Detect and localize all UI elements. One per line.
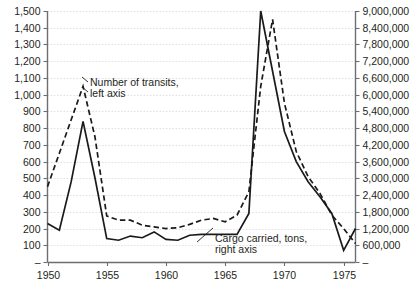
transits-annotation-line2: left axis <box>90 87 126 99</box>
tick-label-right: 4,200,000 <box>363 139 410 151</box>
tick-label-left: 800 <box>23 122 41 134</box>
tick-label-right: 6,000,000 <box>363 89 410 101</box>
tick-label-right: 9,000,000 <box>363 5 410 17</box>
tick-label-left: 500 <box>23 172 41 184</box>
tick-label-right: – <box>363 256 369 268</box>
tick-label-right: 6,600,000 <box>363 72 410 84</box>
tick-label-right: 8,400,000 <box>363 22 410 34</box>
tick-label-right: 4,800,000 <box>363 122 410 134</box>
tick-label-left: 1,400 <box>14 22 40 34</box>
tick-label-x: 1950 <box>37 269 61 281</box>
tick-label-x: 1975 <box>333 269 357 281</box>
tick-label-left: 1,200 <box>14 55 40 67</box>
tick-label-left: – <box>35 256 41 268</box>
tick-label-left: 600 <box>23 156 41 168</box>
tick-label-right: 1,200,000 <box>363 223 410 235</box>
tick-label-right: 3,600,000 <box>363 156 410 168</box>
tick-label-left: 100 <box>23 239 41 251</box>
tick-label-x: 1955 <box>96 269 120 281</box>
tick-label-x: 1960 <box>155 269 179 281</box>
tick-label-x: 1965 <box>214 269 238 281</box>
tick-label-x: 1970 <box>273 269 297 281</box>
tick-label-right: 1,800,000 <box>363 206 410 218</box>
tick-label-left: 1,000 <box>14 89 40 101</box>
tick-label-left: 900 <box>23 105 41 117</box>
tick-label-right: 5,400,000 <box>363 105 410 117</box>
chart-container: –1002003004005006007008009001,0001,1001,… <box>0 0 420 297</box>
tick-label-left: 400 <box>23 189 41 201</box>
tick-label-right: 7,200,000 <box>363 55 410 67</box>
tick-label-left: 200 <box>23 223 41 235</box>
tick-label-left: 1,500 <box>14 5 40 17</box>
tick-label-left: 700 <box>23 139 41 151</box>
tick-label-left: 1,100 <box>14 72 40 84</box>
tick-label-right: 600,000 <box>363 239 401 251</box>
tick-label-left: 300 <box>23 206 41 218</box>
tick-label-right: 3,000,000 <box>363 172 410 184</box>
tick-label-right: 2,400,000 <box>363 189 410 201</box>
line-chart: –1002003004005006007008009001,0001,1001,… <box>0 0 420 297</box>
tick-label-right: 7,800,000 <box>363 38 410 50</box>
cargo-annotation-line2: right axis <box>215 243 257 255</box>
tick-label-left: 1,300 <box>14 38 40 50</box>
